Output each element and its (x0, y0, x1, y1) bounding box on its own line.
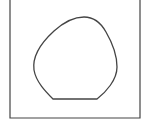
blob-shape (34, 17, 117, 99)
diagram-canvas (0, 0, 147, 123)
